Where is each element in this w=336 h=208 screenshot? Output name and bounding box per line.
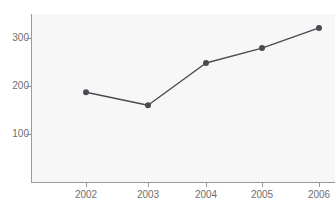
series-layer	[0, 0, 336, 208]
series-line	[86, 28, 319, 105]
data-point-2005	[259, 45, 265, 51]
data-point-2006	[316, 25, 322, 31]
data-point-2002	[83, 89, 89, 95]
series-markers	[83, 25, 322, 108]
line-chart: 300 200 100 2002 2003 2004 2005 2006	[0, 0, 336, 208]
data-point-2004	[203, 60, 209, 66]
data-point-2003	[145, 102, 151, 108]
